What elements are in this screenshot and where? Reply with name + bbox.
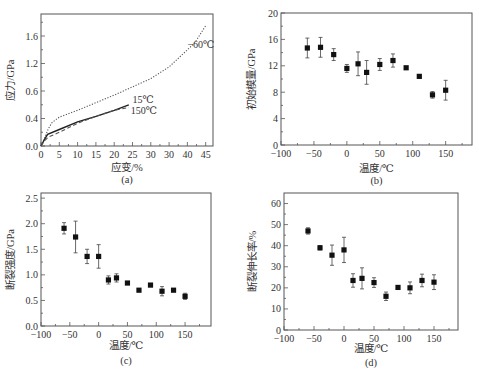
y-tick-label: 8 bbox=[273, 87, 278, 98]
y-tick-label: 4 bbox=[273, 113, 278, 124]
data-point-marker bbox=[350, 278, 355, 283]
data-point-marker bbox=[305, 228, 310, 233]
x-tick-label: 30 bbox=[164, 149, 174, 160]
data-point-marker bbox=[148, 282, 153, 287]
data-point-marker bbox=[430, 92, 435, 97]
x-tick-label: 0 bbox=[344, 148, 349, 159]
x-tick-label: 0 bbox=[96, 329, 101, 340]
data-point-marker bbox=[395, 285, 400, 290]
plot-frame bbox=[281, 13, 472, 145]
data-point-marker bbox=[407, 285, 412, 290]
data-point-marker bbox=[85, 254, 90, 259]
data-point-marker bbox=[96, 254, 101, 259]
x-tick-label: 0 bbox=[39, 149, 44, 160]
data-point-marker bbox=[443, 88, 448, 93]
x-tick-label: 40 bbox=[182, 149, 192, 160]
x-tick-label: 30 bbox=[146, 149, 156, 160]
y-tick-label: 1.0 bbox=[26, 269, 39, 280]
data-point-marker bbox=[106, 277, 111, 282]
data-point-marker bbox=[305, 45, 310, 50]
x-tick-label: 100 bbox=[397, 333, 412, 344]
x-tick-label: 15 bbox=[91, 149, 101, 160]
data-point-marker bbox=[317, 245, 322, 250]
x-axis-label: 温度/℃ bbox=[354, 342, 389, 354]
y-tick-label: 30 bbox=[271, 261, 281, 272]
data-point-marker bbox=[404, 65, 409, 70]
y-tick-label: 0.0 bbox=[26, 321, 39, 332]
x-tick-label: −50 bbox=[306, 333, 322, 344]
y-tick-label: 1.6 bbox=[26, 31, 39, 42]
data-point-marker bbox=[355, 61, 360, 66]
data-point-marker bbox=[159, 289, 164, 294]
curve-150℃ bbox=[41, 108, 129, 147]
x-tick-label: 50 bbox=[375, 148, 385, 159]
data-point-marker bbox=[341, 247, 346, 252]
data-point-marker bbox=[364, 70, 369, 75]
x-tick-label: 45 bbox=[201, 149, 211, 160]
x-tick-label: 150 bbox=[178, 329, 193, 340]
curve-15℃ bbox=[41, 105, 129, 146]
y-tick-label: 40 bbox=[271, 240, 281, 251]
y-tick-label: 0.4 bbox=[26, 113, 39, 124]
y-tick-label: 20 bbox=[271, 282, 281, 293]
curve-label: 150℃ bbox=[131, 105, 157, 116]
curve-label: −60℃ bbox=[187, 39, 214, 50]
panel-d-elongation-at-break: −100−500501001500102030405060温度/℃断裂伸长率/%… bbox=[246, 193, 458, 369]
data-point-marker bbox=[125, 280, 130, 285]
panel-caption: (c) bbox=[120, 355, 132, 367]
data-point-marker bbox=[377, 62, 382, 67]
y-axis-label: 断裂强度/GPa bbox=[4, 229, 16, 290]
y-tick-label: 1.5 bbox=[26, 244, 39, 255]
y-tick-label: 16 bbox=[268, 34, 278, 45]
data-point-marker bbox=[419, 278, 424, 283]
y-tick-label: 0.0 bbox=[26, 141, 39, 152]
panel-b-initial-modulus: −100−50050100150048121620温度/℃初始模量/GPa(b) bbox=[245, 8, 472, 188]
data-point-marker bbox=[114, 275, 119, 280]
panel-caption: (d) bbox=[365, 357, 378, 369]
x-tick-label: 10 bbox=[73, 149, 83, 160]
y-tick-label: 0 bbox=[273, 140, 278, 151]
x-axis-label: 温度/℃ bbox=[359, 162, 394, 174]
data-point-marker bbox=[359, 276, 364, 281]
x-tick-label: 150 bbox=[427, 333, 442, 344]
x-tick-label: 50 bbox=[122, 329, 132, 340]
data-point-marker bbox=[182, 294, 187, 299]
x-tick-label: 100 bbox=[405, 148, 420, 159]
y-tick-label: 1.2 bbox=[26, 58, 39, 69]
y-axis-label: 断裂伸长率/% bbox=[246, 230, 258, 292]
data-point-marker bbox=[136, 288, 141, 293]
data-point-marker bbox=[390, 58, 395, 63]
panel-a-stress-strain: 0510152025303040450.00.40.61.21.6应变/%应力/… bbox=[4, 14, 214, 186]
plot-frame bbox=[41, 193, 211, 326]
x-tick-label: 0 bbox=[342, 333, 347, 344]
x-tick-label: −50 bbox=[306, 148, 322, 159]
y-tick-label: 2.0 bbox=[26, 218, 39, 229]
data-point-marker bbox=[371, 280, 376, 285]
y-tick-label: 2.5 bbox=[26, 193, 39, 204]
data-point-marker bbox=[331, 52, 336, 57]
data-point-marker bbox=[383, 294, 388, 299]
panel-caption: (b) bbox=[370, 175, 383, 187]
plot-frame bbox=[284, 193, 458, 330]
y-axis-label: 初始模量/GPa bbox=[245, 48, 257, 109]
data-point-marker bbox=[61, 226, 66, 231]
panel-c-breaking-strength: −100−500501001500.00.51.01.52.02.5温度/℃断裂… bbox=[4, 193, 211, 367]
data-point-marker bbox=[171, 288, 176, 293]
panel-caption: (a) bbox=[121, 174, 133, 186]
y-tick-label: 0.6 bbox=[26, 86, 39, 97]
curve--60℃ bbox=[41, 26, 206, 146]
y-tick-label: 0.5 bbox=[26, 295, 39, 306]
data-point-marker bbox=[329, 253, 334, 258]
figure: 0510152025303040450.00.40.61.21.6应变/%应力/… bbox=[0, 0, 479, 375]
y-tick-label: 50 bbox=[271, 219, 281, 230]
x-tick-label: −50 bbox=[62, 329, 78, 340]
x-tick-label: 25 bbox=[127, 149, 137, 160]
y-tick-label: 0 bbox=[276, 325, 281, 336]
data-point-marker bbox=[73, 234, 78, 239]
x-axis-label: 温度/℃ bbox=[109, 339, 144, 351]
y-tick-label: 20 bbox=[268, 8, 278, 19]
x-tick-label: 100 bbox=[149, 329, 164, 340]
y-tick-label: 10 bbox=[271, 303, 281, 314]
y-axis-label: 应力/GPa bbox=[4, 59, 16, 100]
y-tick-label: 12 bbox=[268, 60, 278, 71]
